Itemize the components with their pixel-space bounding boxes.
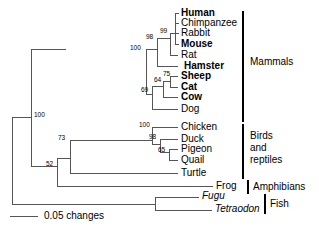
bootstrap-value-73-sauropsids: 73 (58, 134, 65, 141)
tree-branches (0, 0, 319, 228)
bootstrap-value-75-sheep-cat: 75 (163, 70, 170, 77)
taxon-label-rabbit: Rabbit (181, 28, 210, 38)
taxon-label-chicken: Chicken (181, 122, 217, 132)
taxon-label-tetraodon: Tetraodon (215, 204, 260, 214)
bootstrap-value-65-pigeon: 65 (158, 146, 165, 153)
bootstrap-value-69-dog: 69 (141, 86, 148, 93)
bootstrap-value-98-rodents: 98 (146, 33, 153, 40)
group-label-fish: Fish (270, 198, 289, 209)
bootstrap-value-98-birds: 98 (149, 133, 156, 140)
taxon-label-quail: Quail (181, 155, 204, 165)
taxon-label-pigeon: Pigeon (181, 144, 212, 154)
bootstrap-value-64-cow: 64 (154, 76, 161, 83)
taxon-label-sheep: Sheep (181, 71, 211, 81)
group-label-mammals: Mammals (250, 56, 293, 67)
group-label-birds-reptiles: reptiles (250, 154, 282, 165)
taxon-label-turtle: Turtle (181, 168, 206, 178)
bootstrap-value-100-birds: 100 (139, 121, 150, 128)
taxon-label-rat: Rat (181, 50, 197, 60)
phylogenetic-tree-figure: Human Chimpanzee Rabbit Mouse Rat Hamste… (0, 0, 319, 228)
taxon-label-dog: Dog (181, 104, 199, 114)
taxon-label-cow: Cow (181, 92, 202, 102)
taxon-label-fugu: Fugu (202, 191, 225, 201)
group-label-birds: Birds (250, 130, 273, 141)
bootstrap-value-99-primates: 99 (160, 27, 167, 34)
bootstrap-value-100-tetrapods: 100 (34, 111, 45, 118)
group-label-amphibians: Amphibians (253, 181, 305, 192)
bootstrap-value-52-amphibians: 52 (46, 160, 53, 167)
group-label-birds-and: and (250, 142, 267, 153)
taxon-label-mouse: Mouse (181, 39, 213, 49)
scale-bar-label: 0.05 changes (44, 210, 104, 221)
bootstrap-value-100-mammals: 100 (130, 44, 141, 51)
